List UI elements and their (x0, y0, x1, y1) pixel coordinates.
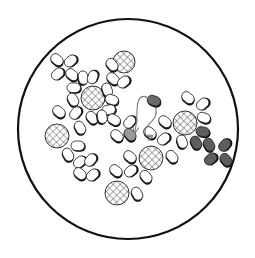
transformed-cell (217, 136, 235, 154)
rod-cell (155, 130, 173, 148)
hatched-sphere (173, 111, 197, 135)
rod-cell (195, 111, 213, 126)
rod-cell (108, 128, 126, 146)
rod-cell (115, 73, 133, 91)
rod-cell (48, 52, 66, 70)
rod-cell (71, 141, 86, 152)
rod-cell (68, 104, 86, 122)
rod-cell (122, 162, 140, 180)
rod-cell (49, 65, 67, 83)
recipient-cell (121, 126, 139, 144)
transformed-cell (202, 150, 220, 168)
rod-cell (107, 163, 125, 181)
rod-cell (174, 134, 189, 152)
rod-cell (141, 125, 159, 143)
rod-cell (86, 68, 101, 86)
colony-diagram (0, 0, 255, 258)
rod-cell (137, 168, 155, 186)
hatched-sphere (105, 181, 129, 205)
rod-cell (179, 90, 197, 108)
rod-cell (67, 83, 82, 94)
rod-cell (83, 151, 101, 169)
rod-cell (163, 148, 181, 166)
transformed-cell (200, 136, 217, 154)
rod-cells (48, 52, 235, 204)
rod-cell (62, 52, 80, 70)
rod-cell (156, 114, 174, 132)
rod-cell (50, 104, 68, 122)
diagram-canvas (0, 0, 255, 258)
rod-cell (84, 166, 102, 184)
rod-cell (128, 185, 145, 203)
rod-cell (71, 119, 88, 137)
hatched-sphere (45, 124, 69, 148)
rod-cell (194, 95, 212, 113)
hatched-sphere (139, 146, 163, 170)
rod-cell (121, 149, 139, 167)
donor-cell (145, 94, 163, 109)
